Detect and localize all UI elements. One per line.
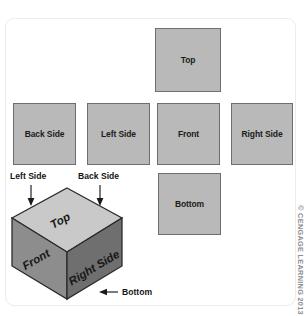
callout-arrow-head-left-side	[28, 198, 35, 206]
face-label-back-side: Back Side	[25, 129, 65, 139]
face-square-back-side: Back Side	[13, 103, 76, 165]
isometric-cube: Top Front Right Side Left Side Back Side…	[0, 168, 165, 316]
callout-arrow-head-bottom	[99, 289, 107, 295]
face-label-top: Top	[181, 55, 196, 65]
copyright-credit-text: © CENGAGE LEARNING 2013	[296, 205, 305, 315]
callout-label-left-side: Left Side	[10, 171, 47, 181]
face-label-left-side: Left Side	[101, 129, 136, 139]
face-label-bottom: Bottom	[175, 199, 204, 209]
face-square-front: Front	[157, 103, 220, 165]
callout-label-bottom: Bottom	[122, 287, 152, 297]
face-label-front: Front	[178, 129, 199, 139]
figure-root: Top Back Side Left Side Front Right Side…	[0, 0, 308, 316]
face-square-right-side: Right Side	[231, 103, 293, 165]
callout-label-back-side: Back Side	[78, 171, 119, 181]
face-label-right-side: Right Side	[241, 129, 282, 139]
face-square-bottom: Bottom	[158, 173, 221, 235]
face-square-left-side: Left Side	[87, 103, 150, 165]
face-square-top: Top	[155, 28, 221, 92]
copyright-credit: © CENGAGE LEARNING 2013	[293, 208, 307, 312]
